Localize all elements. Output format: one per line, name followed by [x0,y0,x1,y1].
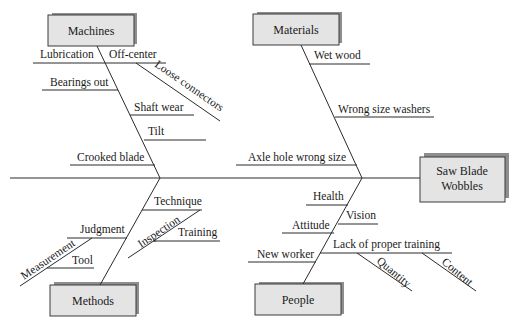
cause-attitude: Attitude [292,219,330,231]
machines-label: Machines [68,24,115,38]
category-machines: Machines Lubrication Off-center Loose co… [33,13,227,178]
effect-label-line2: Wobbles [441,179,483,193]
category-methods: Methods Technique Inspection Training Ju… [18,178,220,316]
cause-wrong-size-washers: Wrong size washers [338,103,431,116]
cause-health: Health [313,190,344,202]
cause-wet-wood: Wet wood [314,49,361,61]
cause-lubrication: Lubrication [40,48,94,60]
cause-tool: Tool [72,254,93,266]
cause-training: Training [178,226,217,239]
category-materials: Materials Wet wood Wrong size washers Ax… [236,12,434,178]
cause-lack-of-training: Lack of proper training [333,238,440,251]
cause-bearings-out: Bearings out [50,76,109,89]
cause-content: Content [440,255,476,288]
cause-new-worker: New worker [257,248,314,260]
cause-measurement: Measurement [18,236,77,281]
cause-crooked-blade: Crooked blade [77,151,144,163]
cause-tilt: Tilt [148,125,165,137]
cause-quantity: Quantity [374,254,413,290]
diagram-canvas: Saw Blade Wobbles Machines Lubrication O… [0,0,514,325]
cause-axle-hole-wrong-size: Axle hole wrong size [248,151,346,164]
effect-box: Saw Blade Wobbles [420,153,509,202]
effect-label-line1: Saw Blade [436,164,488,178]
materials-label: Materials [273,23,319,37]
people-label: People [282,293,315,307]
cause-technique: Technique [154,195,202,208]
methods-label: Methods [72,294,114,308]
fishbone-diagram: Saw Blade Wobbles Machines Lubrication O… [0,0,514,325]
cause-inspection: Inspection [135,213,182,251]
cause-judgment: Judgment [80,223,126,236]
cause-shaft-wear: Shaft wear [134,101,184,113]
cause-off-center: Off-center [109,48,157,60]
cause-vision: Vision [346,209,376,221]
